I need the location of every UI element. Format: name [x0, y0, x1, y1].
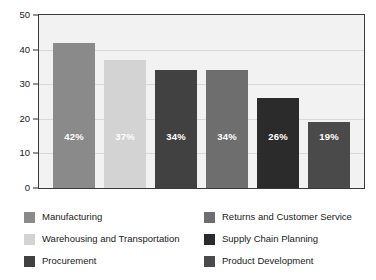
legend-label: Returns and Customer Service — [222, 212, 352, 222]
bar-value-label: 19% — [319, 131, 339, 142]
legend-swatch — [204, 256, 215, 267]
legend-swatch — [24, 234, 35, 245]
plot-area: 42%37%34%34%26%19% — [38, 14, 365, 189]
legend-column-right: Returns and Customer ServiceSupply Chain… — [204, 206, 376, 272]
bar-value-label: 26% — [268, 131, 288, 142]
legend-item[interactable]: Warehousing and Transportation — [24, 228, 210, 250]
legend-item[interactable]: Returns and Customer Service — [204, 206, 376, 228]
y-axis-tick-label: 30 — [4, 79, 30, 89]
legend-label: Procurement — [42, 256, 96, 266]
y-axis-tick-label: 40 — [4, 45, 30, 55]
legend-item[interactable]: Procurement — [24, 250, 210, 272]
legend: ManufacturingWarehousing and Transportat… — [0, 206, 376, 280]
bar-slot: 37% — [104, 15, 146, 188]
bar-slot: 26% — [257, 15, 299, 188]
bar-slot: 19% — [308, 15, 350, 188]
legend-item[interactable]: Product Development — [204, 250, 376, 272]
legend-swatch — [204, 234, 215, 245]
bar[interactable]: 37% — [104, 60, 146, 188]
bar[interactable]: 26% — [257, 98, 299, 188]
legend-item[interactable]: Manufacturing — [24, 206, 210, 228]
bar-value-label: 34% — [217, 131, 237, 142]
bar[interactable]: 19% — [308, 122, 350, 188]
bar-series: 42%37%34%34%26%19% — [39, 15, 364, 188]
bar[interactable]: 42% — [53, 43, 95, 188]
y-axis-tick-label: 0 — [4, 183, 30, 193]
bar[interactable]: 34% — [155, 70, 197, 188]
legend-label: Product Development — [222, 256, 313, 266]
legend-label: Supply Chain Planning — [222, 234, 318, 244]
legend-swatch — [204, 212, 215, 223]
chart-area: 50 40 30 20 10 0 42%37%34%34%26%19% — [0, 0, 376, 204]
y-axis-tick-label: 50 — [4, 10, 30, 20]
bar-slot: 42% — [53, 15, 95, 188]
legend-swatch — [24, 256, 35, 267]
legend-column-left: ManufacturingWarehousing and Transportat… — [24, 206, 210, 272]
bar-chart-figure: 50 40 30 20 10 0 42%37%34%34%26%19% Manu… — [0, 0, 376, 280]
bar-value-label: 42% — [64, 131, 84, 142]
bar-value-label: 34% — [166, 131, 186, 142]
y-axis-tick-label: 20 — [4, 114, 30, 124]
legend-label: Manufacturing — [42, 212, 102, 222]
bar[interactable]: 34% — [206, 70, 248, 188]
y-axis-tick-label: 10 — [4, 149, 30, 159]
y-axis-tick-labels: 50 40 30 20 10 0 — [4, 0, 30, 204]
bar-slot: 34% — [206, 15, 248, 188]
legend-item[interactable]: Supply Chain Planning — [204, 228, 376, 250]
legend-swatch — [24, 212, 35, 223]
bar-value-label: 37% — [115, 131, 135, 142]
bar-slot: 34% — [155, 15, 197, 188]
legend-label: Warehousing and Transportation — [42, 234, 179, 244]
